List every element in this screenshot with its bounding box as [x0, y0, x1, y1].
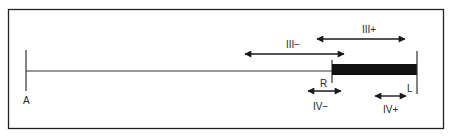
label-l: L: [407, 83, 413, 94]
label-a: A: [23, 95, 30, 106]
diagram-canvas: A R L III+ III− IV− IV+: [0, 0, 457, 136]
label-iii-minus: III−: [286, 39, 300, 50]
label-iv-minus: IV−: [313, 101, 328, 112]
label-r: R: [320, 78, 327, 89]
label-iv-plus: IV+: [383, 104, 398, 115]
thick-bar: [332, 64, 417, 75]
label-iii-plus: III+: [362, 24, 376, 35]
